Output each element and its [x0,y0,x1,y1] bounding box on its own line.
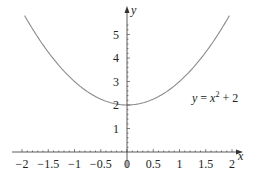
x-tick-label: −1.5 [37,157,59,171]
x-tick-label: 0.5 [146,157,161,171]
y-tick-label: 2 [113,98,119,112]
y-tick-label: 1 [113,122,119,136]
y-tick-label: 5 [113,28,119,42]
x-tick-label: 0 [124,157,130,171]
y-axis-arrow-icon [125,6,130,13]
y-tick-label: 4 [113,51,119,65]
y-tick-label: 3 [113,75,119,89]
x-axis-label: x [237,149,244,163]
function-plot: −2−1.5−1−0.500.511.5212345 x y y = x2 + … [0,0,257,174]
x-tick-label: −2 [16,157,29,171]
x-tick-label: 1 [177,157,183,171]
x-tick-label: −1 [68,157,81,171]
axes [12,6,243,168]
x-tick-label: −0.5 [90,157,112,171]
x-tick-label: 1.5 [198,157,213,171]
x-tick-label: 2 [229,157,235,171]
y-axis-label: y [130,3,137,17]
equation-annotation: y = x2 + 2 [191,90,238,105]
